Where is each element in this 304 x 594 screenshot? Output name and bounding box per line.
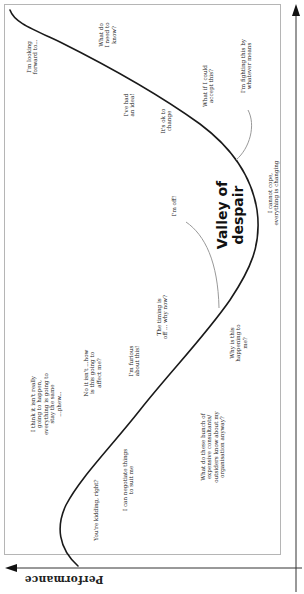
label-furious: I'm furious about this! — [128, 346, 141, 377]
label-kidding: You're kidding, right? — [93, 479, 99, 540]
label-could-accept: What if I could accept this? — [202, 65, 215, 107]
performance-axis-label: Performance — [14, 574, 114, 586]
label-consultants: What do these bunch of expensive consult… — [200, 411, 226, 482]
label-why-happening: Why is this happening to me? — [229, 324, 248, 361]
time-axis-arrowhead-icon — [292, 4, 300, 16]
valley-of-despair-title: Valley of despair — [214, 181, 246, 249]
label-what-need-know: What do I need to know? — [98, 22, 117, 47]
label-cannot-cope: I cannot cope, everything is changing — [267, 161, 280, 226]
label-fighting: I'm fighting this by whatever means — [240, 39, 253, 93]
label-timing-off: The timing is off ... why now? — [156, 295, 169, 339]
connector-fighting — [236, 110, 252, 160]
label-had-idea: I've had an idea! — [123, 94, 136, 117]
label-no-it-isnt: No it isn't ...how is this going to affe… — [83, 350, 102, 397]
label-im-off: I'm off! — [171, 196, 177, 216]
label-think-isnt: I think it isn't really going to happen,… — [30, 373, 62, 435]
label-looking-forward: I'm looking forward to... — [26, 39, 39, 74]
label-negotiate: I can negotiate things to suit me — [122, 449, 135, 511]
label-ok-change: It's ok to change — [160, 109, 173, 134]
performance-axis-arrowhead-icon — [5, 564, 17, 572]
diagram-canvas — [0, 0, 304, 594]
